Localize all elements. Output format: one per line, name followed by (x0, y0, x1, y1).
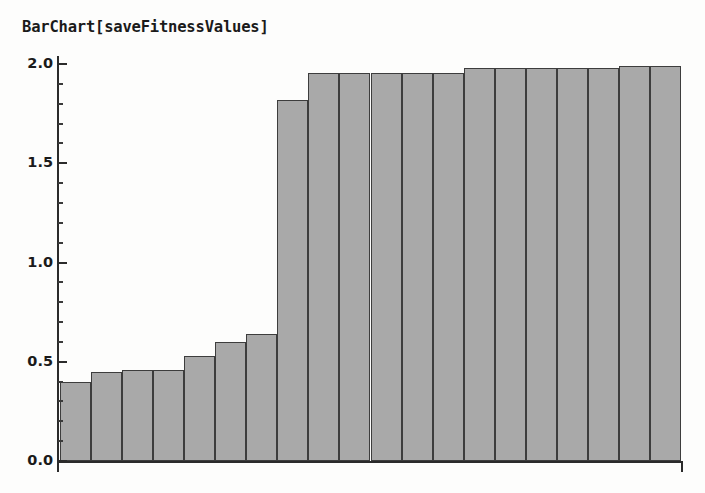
chart-title: BarChart[saveFitnessValues] (22, 18, 269, 36)
bar (308, 73, 339, 461)
y-axis-minor-tick (58, 142, 63, 144)
y-axis-minor-tick (58, 400, 63, 402)
y-axis-minor-tick (58, 222, 63, 224)
bar (526, 68, 557, 461)
bar (339, 73, 370, 461)
y-axis-labels: 2.01.51.00.50.0 (0, 0, 53, 493)
y-axis-tick-label: 0.0 (7, 453, 53, 468)
x-axis-right-cap (681, 461, 683, 472)
y-axis-minor-tick (58, 381, 63, 383)
y-axis-major-tick (58, 162, 67, 164)
bar (557, 68, 588, 461)
bar-series (60, 56, 681, 461)
y-axis-minor-tick (58, 440, 63, 442)
bar (184, 356, 215, 461)
bar (588, 68, 619, 461)
y-axis-minor-tick (58, 420, 63, 422)
bar (433, 73, 464, 461)
y-axis-minor-tick (58, 301, 63, 303)
bar (464, 68, 495, 461)
x-axis-left-cap (57, 461, 59, 472)
bar (246, 334, 277, 461)
bar (215, 342, 246, 461)
y-axis-minor-tick (58, 182, 63, 184)
y-axis-tick-label: 2.0 (7, 56, 53, 71)
bar (619, 66, 650, 461)
bar (153, 370, 184, 461)
y-axis-minor-tick (58, 281, 63, 283)
y-axis-minor-tick (58, 321, 63, 323)
y-axis-minor-tick (58, 83, 63, 85)
bar (495, 68, 526, 461)
y-axis-minor-tick (58, 202, 63, 204)
bar (650, 66, 681, 461)
y-axis-minor-tick (58, 242, 63, 244)
y-axis-major-tick (58, 361, 67, 363)
y-axis-minor-tick (58, 103, 63, 105)
y-axis-tick-label: 0.5 (7, 354, 53, 369)
y-axis-tick-label: 1.5 (7, 155, 53, 170)
y-axis-major-tick (58, 460, 67, 462)
bar (122, 370, 153, 461)
bar (371, 73, 402, 461)
bar (91, 372, 122, 461)
bar (277, 100, 308, 461)
bar (402, 73, 433, 461)
bar (60, 382, 91, 461)
chart-container: BarChart[saveFitnessValues] 2.01.51.00.5… (0, 0, 705, 493)
y-axis-major-tick (58, 63, 67, 65)
x-axis-line (57, 461, 683, 463)
y-axis-tick-label: 1.0 (7, 255, 53, 270)
y-axis-major-tick (58, 262, 67, 264)
y-axis-minor-tick (58, 123, 63, 125)
y-axis-minor-tick (58, 341, 63, 343)
